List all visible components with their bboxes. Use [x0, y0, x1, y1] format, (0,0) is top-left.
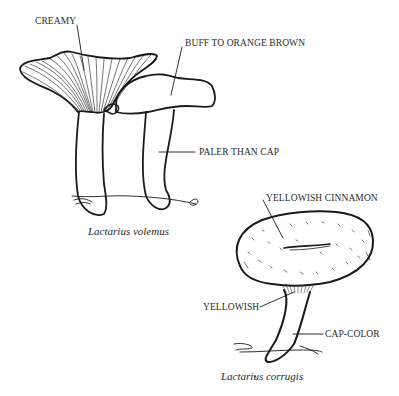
lactarius-corrugis-mushroom [237, 211, 373, 362]
lactarius-volemus-right-mushroom [116, 74, 215, 209]
label-yellowish-cinnamon: YELLOWISH CINNAMON [266, 193, 378, 203]
label-paler-than-cap: PALER THAN CAP [199, 147, 279, 157]
label-buff-to-orange-brown: BUFF TO ORANGE BROWN [185, 38, 305, 48]
leader-lines-2 [260, 200, 323, 334]
lactarius-volemus-left-mushroom [20, 51, 157, 215]
leader-lines-1 [77, 25, 195, 152]
species-caption-corrugis: Lactarius corrugis [221, 370, 303, 382]
label-yellowish: YELLOWISH [203, 302, 259, 312]
label-cap-color: CAP-COLOR [325, 329, 380, 339]
species-caption-volemus: Lactarius volemus [88, 225, 169, 237]
ground-lines-1 [72, 196, 198, 206]
label-creamy: CREAMY [35, 16, 76, 26]
